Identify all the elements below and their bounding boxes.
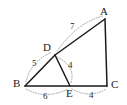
segment-AC bbox=[105, 19, 107, 86]
length-EC: 4 bbox=[89, 91, 94, 100]
length-BD: 5 bbox=[32, 59, 37, 68]
vertex-label-a: A bbox=[100, 6, 108, 17]
segment-DA bbox=[55, 19, 105, 55]
vertex-label-c: C bbox=[111, 79, 118, 90]
length-DE: 4 bbox=[68, 61, 73, 70]
vertex-label-d: D bbox=[43, 42, 51, 53]
solid-segments-layer bbox=[25, 19, 107, 86]
geometry-diagram: ABCDE 75464 bbox=[0, 0, 127, 105]
arc-DA bbox=[57, 16, 103, 51]
vertex-label-e: E bbox=[66, 88, 73, 99]
vertex-label-b: B bbox=[13, 78, 20, 89]
arc-BD bbox=[26, 52, 52, 82]
length-BE: 6 bbox=[43, 92, 48, 101]
length-DA: 7 bbox=[70, 22, 75, 31]
